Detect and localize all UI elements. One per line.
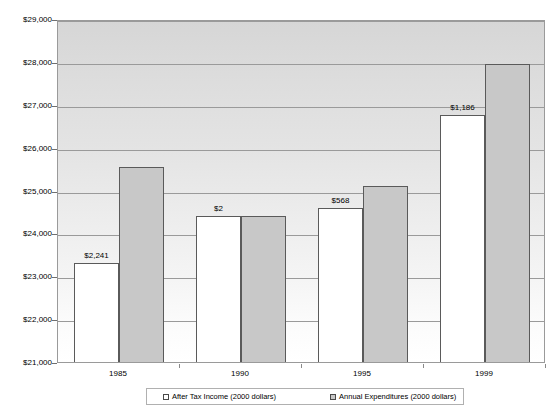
- chart-legend: After Tax Income (2000 dollars) Annual E…: [146, 388, 464, 405]
- y-axis-tick-label: $25,000: [0, 188, 52, 196]
- x-axis-tick-mark: [423, 364, 424, 368]
- x-axis-tick-mark: [545, 364, 546, 368]
- x-axis-tick-mark: [301, 364, 302, 368]
- plot-area: $2,241$2$568$1,186: [57, 20, 545, 363]
- y-axis-tick-label: $28,000: [0, 59, 52, 67]
- x-axis-tick-mark: [179, 364, 180, 368]
- y-axis-tick-label: $22,000: [0, 316, 52, 324]
- y-axis-tick-label: $29,000: [0, 16, 52, 24]
- gridline: [58, 21, 544, 22]
- bar-1990-expenditures: [241, 216, 286, 363]
- bar-1995-income: [318, 208, 363, 363]
- y-axis-tick-label: $23,000: [0, 273, 52, 281]
- bar-1999-expenditures: [485, 64, 530, 363]
- x-axis-tick-label: 1990: [210, 369, 270, 378]
- bar-1985-expenditures: [119, 167, 164, 363]
- x-axis-tick-label: 1999: [454, 369, 514, 378]
- bar-1999-income: [440, 115, 485, 363]
- bar-1990-income: [196, 216, 241, 363]
- y-axis-tick-label: $21,000: [0, 359, 52, 367]
- data-label-1985: $2,241: [74, 251, 119, 260]
- x-axis-tick-label: 1985: [88, 369, 148, 378]
- y-axis-tick-mark: [52, 363, 57, 364]
- data-label-1990: $2: [196, 204, 241, 213]
- bar-1995-expenditures: [363, 186, 408, 363]
- bar-1985-income: [74, 263, 119, 363]
- y-axis-tick-label: $24,000: [0, 230, 52, 238]
- data-label-1995: $568: [318, 196, 363, 205]
- x-axis-tick-label: 1995: [332, 369, 392, 378]
- legend-label-after-tax-income: After Tax Income (2000 dollars): [172, 392, 276, 401]
- legend-swatch-icon-expenditures: [330, 394, 336, 400]
- bar-chart: $2,241$2$568$1,186 $21,000$22,000$23,000…: [0, 0, 556, 420]
- y-axis-tick-label: $26,000: [0, 145, 52, 153]
- legend-item-annual-expenditures[interactable]: Annual Expenditures (2000 dollars): [330, 392, 456, 401]
- legend-label-annual-expenditures: Annual Expenditures (2000 dollars): [339, 392, 456, 401]
- gridline: [58, 64, 544, 65]
- legend-swatch-icon-income: [163, 394, 169, 400]
- legend-item-after-tax-income[interactable]: After Tax Income (2000 dollars): [163, 392, 276, 401]
- data-label-1999: $1,186: [440, 103, 485, 112]
- y-axis-tick-label: $27,000: [0, 102, 52, 110]
